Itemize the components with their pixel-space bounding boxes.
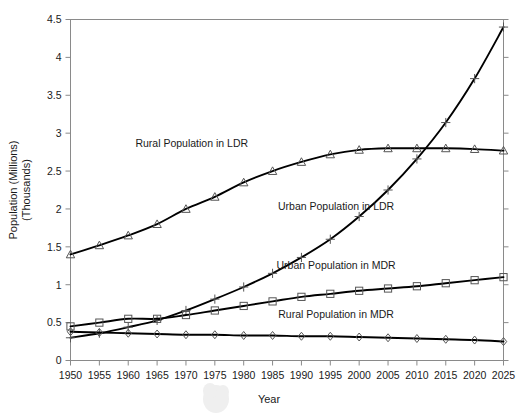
y-tick-label: 1.5 xyxy=(47,241,62,253)
x-tick-label: 2025 xyxy=(492,369,516,381)
data-point-marker xyxy=(124,323,133,332)
y-axis-title-line1: Population (Millions) xyxy=(7,140,19,239)
data-point-marker xyxy=(499,22,508,31)
series-square xyxy=(67,274,507,330)
series-annotations: Rural Population in LDRUrban Population … xyxy=(135,137,396,320)
x-axis-title: Year xyxy=(258,393,281,405)
x-tick-label: 2000 xyxy=(347,369,371,381)
x-tick-label: 1990 xyxy=(290,369,314,381)
data-series-group xyxy=(66,22,508,345)
y-axis-title-line2: (Thousands) xyxy=(20,159,32,221)
x-tick-label: 1995 xyxy=(319,369,343,381)
x-tick-label: 2015 xyxy=(434,369,458,381)
x-tick-label: 1950 xyxy=(59,369,83,381)
x-tick-label: 2010 xyxy=(405,369,429,381)
series-label-0: Rural Population in LDR xyxy=(135,137,248,149)
data-point-marker xyxy=(210,295,219,304)
axis-titles: Year Population (Millions) (Thousands) xyxy=(7,140,280,405)
x-tick-label: 1960 xyxy=(117,369,141,381)
series-label-1: Urban Population in LDR xyxy=(278,200,395,212)
y-tick-label: 1 xyxy=(56,279,62,291)
data-point-marker xyxy=(470,74,479,83)
y-tick-label: 2 xyxy=(56,203,62,215)
y-tick-label: 0 xyxy=(56,354,62,366)
y-tick-label: 3.5 xyxy=(47,89,62,101)
series-plus xyxy=(66,22,508,342)
watermark xyxy=(203,383,229,413)
x-tick-label: 1965 xyxy=(145,369,169,381)
x-tick-label: 1980 xyxy=(232,369,256,381)
y-tick-label: 0.5 xyxy=(47,316,62,328)
x-tick-label: 2005 xyxy=(376,369,400,381)
series-label-2: Urban Population in MDR xyxy=(277,259,396,271)
series-line xyxy=(71,332,504,342)
series-line xyxy=(71,27,504,338)
y-tick-label: 4.5 xyxy=(47,13,62,25)
x-tick-label: 1970 xyxy=(174,369,198,381)
x-axis-ticks: 1950195519601965197019751980198519901995… xyxy=(59,361,516,381)
y-tick-label: 2.5 xyxy=(47,165,62,177)
series-diamond xyxy=(67,328,506,346)
chart-container: 00.511.522.533.544.5 1950195519601965197… xyxy=(0,0,528,417)
y-tick-label: 3 xyxy=(56,127,62,139)
series-label-3: Rural Population in MDR xyxy=(278,308,394,320)
data-point-marker xyxy=(239,282,248,291)
x-tick-label: 1975 xyxy=(203,369,227,381)
x-tick-label: 2020 xyxy=(463,369,487,381)
x-tick-label: 1955 xyxy=(88,369,112,381)
y-tick-label: 4 xyxy=(56,51,62,63)
x-tick-label: 1985 xyxy=(261,369,285,381)
data-point-marker xyxy=(66,333,75,342)
population-line-chart: 00.511.522.533.544.5 1950195519601965197… xyxy=(0,0,528,417)
